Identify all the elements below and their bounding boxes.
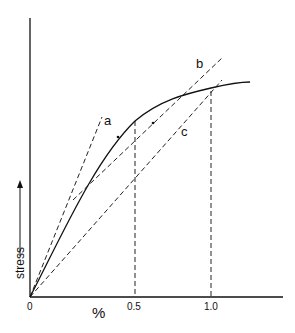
tick-label-05: 0.5	[127, 301, 141, 312]
line-b	[73, 58, 222, 200]
tangent-point	[152, 122, 155, 125]
label-c: c	[181, 124, 188, 139]
stress-strain-chart: a b c 0 0.5 1.0 % stress	[0, 0, 295, 333]
tick-label-0: 0	[27, 301, 33, 312]
label-a: a	[104, 113, 112, 128]
label-b: b	[196, 56, 203, 71]
line-a	[30, 117, 102, 297]
tangent-point	[117, 136, 120, 139]
tick-label-10: 1.0	[204, 301, 218, 312]
line-c	[30, 80, 222, 297]
stress-strain-curve	[30, 82, 250, 297]
arrowhead-icon	[17, 180, 23, 188]
x-axis-label: %	[92, 304, 105, 321]
y-axis-label: stress	[13, 247, 27, 279]
